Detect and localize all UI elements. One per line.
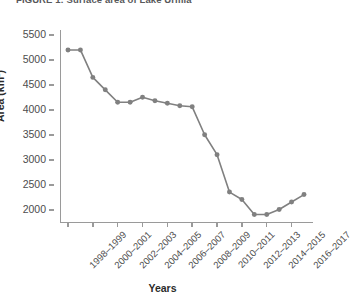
- data-point: [78, 47, 83, 52]
- data-point: [302, 192, 307, 197]
- data-point: [227, 190, 232, 195]
- data-point: [215, 152, 220, 157]
- data-point: [264, 212, 269, 217]
- data-point: [252, 212, 257, 217]
- data-point: [177, 103, 182, 108]
- data-point: [128, 100, 133, 105]
- data-point: [165, 101, 170, 106]
- data-point: [202, 132, 207, 137]
- data-point: [140, 95, 145, 100]
- data-point: [152, 98, 157, 103]
- data-point: [277, 207, 282, 212]
- series-line: [68, 50, 304, 215]
- data-point: [103, 87, 108, 92]
- data-point: [239, 197, 244, 202]
- data-point: [289, 200, 294, 205]
- data-point: [90, 75, 95, 80]
- data-point: [115, 100, 120, 105]
- data-point: [190, 104, 195, 109]
- data-point: [66, 47, 71, 52]
- series-markers: [66, 47, 307, 217]
